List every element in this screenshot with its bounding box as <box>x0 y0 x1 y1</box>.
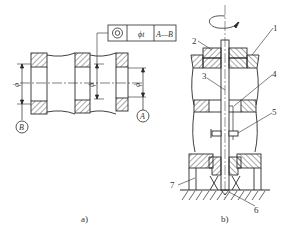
hatched-section <box>75 100 90 113</box>
hatched-section <box>75 53 90 67</box>
part-number-7: 7 <box>170 180 175 190</box>
hatched-section <box>31 53 47 67</box>
rotation-arrow-icon <box>209 16 238 28</box>
part-number-6: 6 <box>254 205 259 215</box>
caption-b: b) <box>221 214 229 224</box>
tolerance-value: ϕt <box>138 30 145 39</box>
caption-a: a) <box>81 214 88 224</box>
part-number-4: 4 <box>272 69 277 79</box>
diameter-label-right: ϕ <box>133 83 142 87</box>
figure-a <box>16 25 176 133</box>
datum-a-label: A <box>139 112 145 121</box>
concentricity-icon <box>113 28 123 38</box>
tolerance-datum: A—B <box>155 30 173 39</box>
part-number-2: 2 <box>192 36 197 46</box>
part-number-3: 3 <box>202 71 207 81</box>
hatched-section <box>116 53 128 67</box>
hatched-section <box>31 101 47 114</box>
technical-drawing: ϕt A—B B A ϕ ϕ ϕ a) <box>0 0 288 235</box>
part-number-5: 5 <box>272 107 277 117</box>
datum-b-label: B <box>19 123 24 132</box>
part-number-1: 1 <box>273 23 278 33</box>
diameter-label-middle: ϕ <box>87 83 96 87</box>
hatched-section <box>116 98 128 111</box>
diameter-label-left: ϕ <box>12 83 21 87</box>
